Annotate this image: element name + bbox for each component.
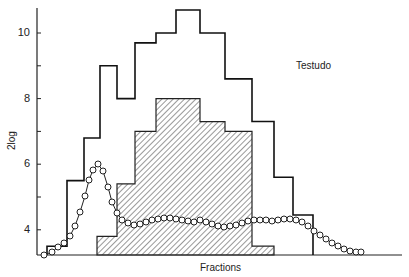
y-tick-4: 4 <box>10 223 30 235</box>
y-tick-6: 6 <box>10 157 30 169</box>
hatched-histogram <box>97 99 274 255</box>
y-tick-10: 10 <box>10 26 30 38</box>
plot-area <box>0 0 409 277</box>
y-axis-label: 2log <box>6 131 17 150</box>
x-axis-label: Fractions <box>200 262 241 273</box>
y-tick-8: 8 <box>10 92 30 104</box>
annotation-testudo: Testudo <box>296 60 331 71</box>
chart-container: 46810 2log Fractions Testudo <box>0 0 409 277</box>
